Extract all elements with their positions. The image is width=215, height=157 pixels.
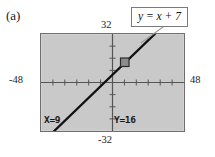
y-max-label: 32	[101, 19, 112, 30]
square-cursor-icon	[121, 58, 130, 67]
x-max-label: 48	[190, 74, 201, 85]
figure-label: (a)	[6, 8, 20, 24]
leader-line-icon	[140, 26, 164, 44]
calculator-screen	[40, 33, 185, 132]
x-min-label: -48	[9, 74, 23, 85]
equation-callout-box: y = x + 7	[131, 7, 188, 27]
graph-plot-area	[41, 34, 184, 131]
trace-y-readout: Y=16	[114, 114, 136, 125]
y-min-label: -32	[98, 134, 112, 145]
trace-x-readout: X=9	[44, 114, 60, 125]
